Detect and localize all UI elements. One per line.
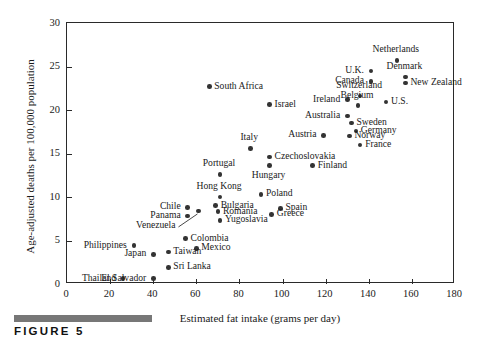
data-point [185,205,190,210]
x-axis-tick [412,279,413,284]
data-point-label: Portugal [203,158,236,169]
y-axis-tick-label: 0 [38,278,60,289]
data-point-label: Poland [266,188,293,199]
data-point [267,155,272,160]
data-point [269,212,274,217]
x-axis-tick-label: 160 [394,288,428,299]
data-point-label: Ireland [313,93,340,104]
x-axis-tick [196,279,197,284]
data-point [248,146,253,151]
data-point-label: South Africa [214,80,263,91]
data-point-label: Denmark [387,61,423,72]
data-point [166,265,171,270]
data-point [151,252,156,257]
y-axis-tick [67,110,72,111]
data-point-label: New Zealand [410,77,461,88]
data-point [196,209,201,214]
y-axis-tick-label: 10 [38,191,60,202]
data-point-label: Czechoslovakia [275,151,336,162]
y-axis-tick [67,241,72,242]
data-point [403,81,408,86]
y-axis-tick-label: 20 [38,104,60,115]
data-point-label: U.S. [391,96,408,107]
data-point-label: Sweden [357,117,387,128]
data-point [267,163,272,168]
data-point-label: Venezuela [136,220,175,231]
y-axis-tick-label: 15 [38,147,60,158]
figure-caption: FIGURE 5 [14,325,85,337]
data-point [403,75,408,80]
data-point-label: Colombia [191,233,229,244]
y-axis-title: Age-adjusted deaths per 100,000 populati… [24,47,37,267]
x-axis-tick [239,279,240,284]
data-point-label: Canada [335,75,364,86]
x-axis-tick-label: 60 [178,288,212,299]
x-axis-tick-label: 100 [265,288,299,299]
data-point [166,250,171,255]
data-point-label: Austria [288,129,316,140]
data-point [218,172,223,177]
data-point [321,133,326,138]
data-point [218,218,223,223]
data-point-label: Belgium [340,89,373,100]
y-axis-tick [67,154,72,155]
data-point-label: Philippines [84,239,127,250]
data-point-label: Bulgaria [221,199,254,210]
x-axis-tick-label: 140 [351,288,385,299]
data-point [310,163,315,168]
data-point [207,84,212,89]
data-point [345,114,350,119]
x-axis-tick [369,279,370,284]
data-point-label: Hong Kong [197,181,242,192]
data-point [347,134,352,139]
data-point [259,192,264,197]
x-axis-tick-label: 180 [437,288,471,299]
data-point-label: Israel [275,99,296,110]
y-axis-tick [67,197,72,198]
data-point-label: Chile [160,201,181,212]
data-point-label: Sri Lanka [173,261,211,272]
data-point-label: Mexico [201,242,230,253]
data-point-label: Netherlands [373,44,419,55]
data-point [213,203,218,208]
data-point-label: Italy [240,132,258,143]
data-point [151,276,156,281]
y-axis-tick-label: 30 [38,17,60,28]
y-axis-tick-label: 25 [38,60,60,71]
data-point-label: U.K. [345,65,364,76]
x-axis-tick-label: 40 [135,288,169,299]
data-point-label: Australia [305,110,340,121]
y-axis-tick-label: 5 [38,234,60,245]
y-axis-tick [67,67,72,68]
data-point [183,236,188,241]
x-axis-tick-label: 120 [308,288,342,299]
data-point-label: Hungary [252,169,286,180]
x-axis-tick-label: 0 [49,288,83,299]
data-point [267,102,272,107]
x-axis-tick-label: 20 [92,288,126,299]
data-point-label: El Salvador [101,273,146,284]
data-point-label: Taiwan [173,246,201,257]
data-point [349,121,354,126]
data-point-label: Japan [124,248,146,259]
data-point-label: Spain [285,202,307,213]
x-axis-tick [326,279,327,284]
x-axis-tick [283,279,284,284]
x-axis-tick-label: 80 [221,288,255,299]
caption-rule [14,315,152,322]
figure-container: Age-adjusted deaths per 100,000 populati… [0,0,482,343]
